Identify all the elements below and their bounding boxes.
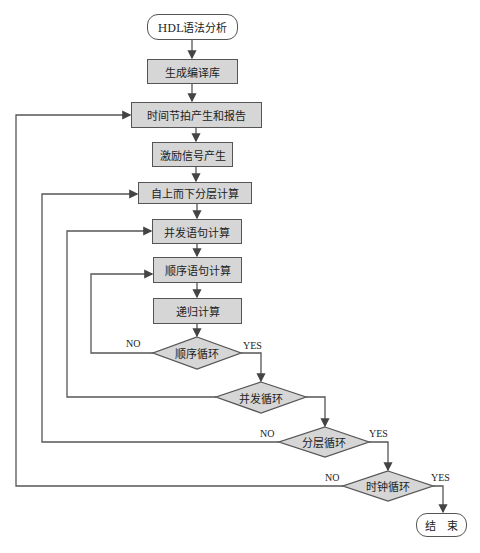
decision-con-loop-label: 并发循环 xyxy=(216,382,306,413)
process-recursive: 递归计算 xyxy=(153,298,242,324)
process-sequential: 顺序语句计算 xyxy=(153,257,242,283)
process-stimulus: 激励信号产生 xyxy=(152,142,233,167)
layer-no-label: NO xyxy=(260,428,274,439)
process-time-step: 时间节拍产生和报告 xyxy=(131,102,262,128)
clock-no-label: NO xyxy=(325,472,339,483)
seq-no-label: NO xyxy=(126,338,140,349)
decision-clock-loop-label: 时钟循环 xyxy=(343,471,433,501)
process-gen-lib: 生成编译库 xyxy=(147,59,238,84)
layer-yes-label: YES xyxy=(369,428,388,439)
end-node: 结 束 xyxy=(416,513,467,537)
process-concurrent: 并发语句计算 xyxy=(152,219,242,244)
clock-yes-label: YES xyxy=(431,472,450,483)
decision-layer-loop-label: 分层循环 xyxy=(279,427,369,457)
decision-seq-loop-label: 顺序循环 xyxy=(153,337,241,369)
start-node: HDL语法分析 xyxy=(147,14,238,40)
seq-yes-label: YES xyxy=(243,340,262,351)
process-top-down: 自上而下分层计算 xyxy=(138,182,252,204)
